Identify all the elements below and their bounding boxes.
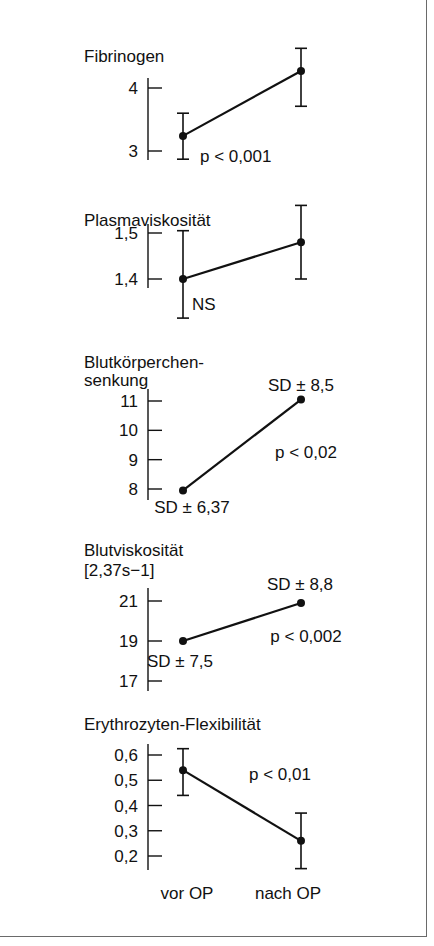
panel-title: Erythrozyten-Flexibilität — [84, 715, 261, 734]
data-point — [179, 132, 187, 140]
y-tick-label: 3 — [129, 142, 138, 161]
data-point — [179, 637, 187, 645]
annotation-label: SD ± 8,8 — [267, 575, 333, 594]
y-tick-label: 11 — [120, 392, 138, 411]
annotation-label: p < 0,01 — [249, 765, 311, 784]
y-tick-label: 0,4 — [114, 797, 138, 816]
data-point — [297, 238, 305, 246]
panel-title: senkung — [84, 371, 148, 390]
panel-title: [2,37s−1] — [84, 561, 154, 580]
annotation-label: NS — [192, 295, 216, 314]
data-point — [179, 766, 187, 774]
y-tick-label: 1,5 — [114, 224, 138, 243]
panel-title: Blutkörperchen- — [84, 353, 204, 372]
y-tick-label: 1,4 — [114, 270, 138, 289]
y-tick-label: 4 — [129, 79, 138, 98]
annotation-label: p < 0,02 — [275, 443, 337, 462]
data-line — [183, 71, 301, 136]
data-point — [297, 67, 305, 75]
panel-title: Blutviskosität — [84, 541, 183, 560]
annotation-label: p < 0,002 — [270, 627, 341, 646]
y-tick-label: 0,5 — [114, 771, 138, 790]
annotation-label: p < 0,001 — [200, 147, 271, 166]
y-tick-label: 9 — [129, 451, 138, 470]
annotation-label: SD ± 6,37 — [154, 498, 229, 517]
data-point — [179, 486, 187, 494]
panel-title: Fibrinogen — [84, 47, 164, 66]
y-tick-label: 17 — [119, 672, 138, 691]
data-point — [297, 396, 305, 404]
y-tick-label: 10 — [119, 421, 138, 440]
y-tick-label: 0,2 — [114, 847, 138, 866]
y-tick-label: 8 — [129, 480, 138, 499]
annotation-label: SD ± 8,5 — [268, 376, 334, 395]
data-point — [297, 837, 305, 845]
x-label-nach-op: nach OP — [255, 884, 321, 903]
chart-figure: Fibrinogen34p < 0,001Plasmaviskosität1,4… — [0, 0, 434, 946]
data-point — [179, 275, 187, 283]
y-tick-label: 21 — [119, 592, 138, 611]
data-point — [297, 599, 305, 607]
y-tick-label: 0,3 — [114, 822, 138, 841]
y-tick-label: 19 — [119, 632, 138, 651]
data-line — [183, 242, 301, 279]
x-label-vor-op: vor OP — [161, 884, 214, 903]
y-tick-label: 0,6 — [114, 746, 138, 765]
annotation-label: SD ± 7,5 — [147, 652, 213, 671]
